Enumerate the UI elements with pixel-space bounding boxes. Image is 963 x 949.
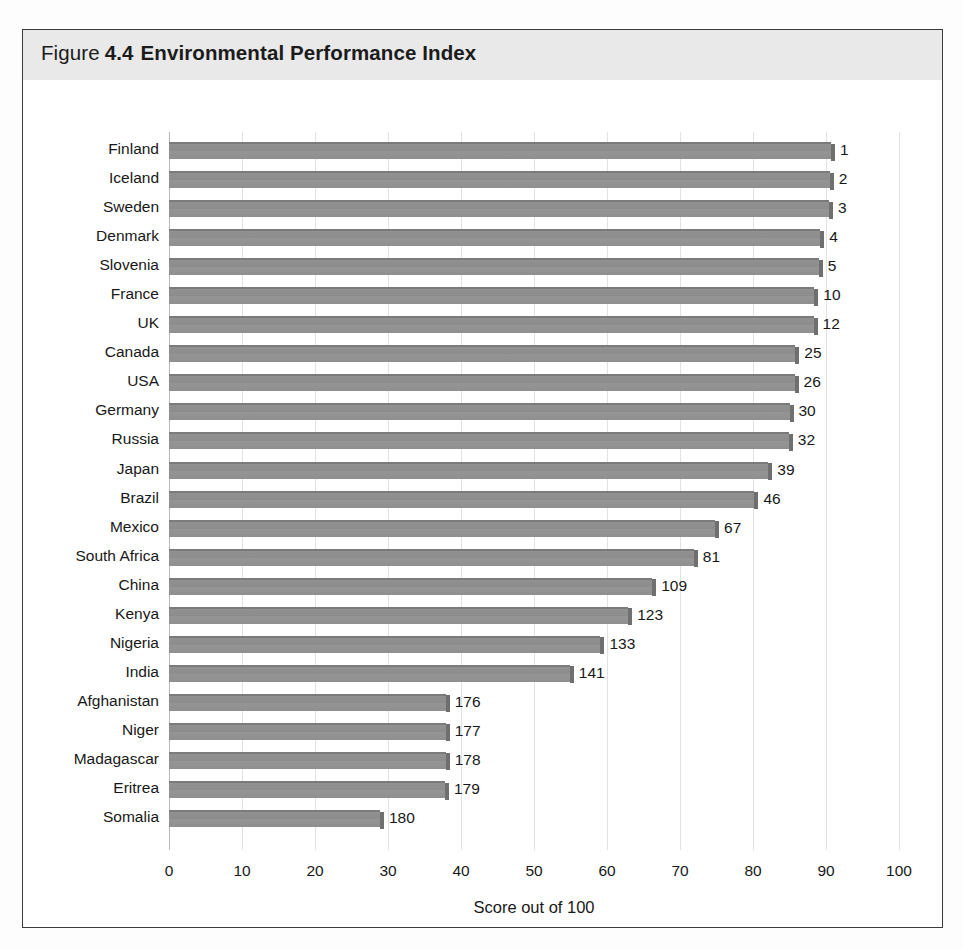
category-label: Afghanistan bbox=[0, 692, 159, 710]
bar-row: UK12 bbox=[23, 312, 942, 341]
x-tick-label: 10 bbox=[212, 862, 272, 880]
bar-value-label: 1 bbox=[840, 141, 849, 159]
bar-track: 81 bbox=[169, 545, 942, 574]
bar bbox=[169, 781, 445, 798]
bar-track: 30 bbox=[169, 399, 942, 428]
bar-value-label: 30 bbox=[799, 402, 816, 420]
bar-row: Madagascar178 bbox=[23, 748, 942, 777]
figure-header-band: Figure4.4Environmental Performance Index bbox=[23, 30, 942, 80]
bar-value-label: 177 bbox=[455, 722, 481, 740]
bar-track: 39 bbox=[169, 458, 942, 487]
bar-row: Japan39 bbox=[23, 458, 942, 487]
bar-track: 26 bbox=[169, 370, 942, 399]
bar-track: 179 bbox=[169, 777, 942, 806]
x-tick-label: 20 bbox=[285, 862, 345, 880]
x-tick-label: 90 bbox=[796, 862, 856, 880]
category-label: Slovenia bbox=[0, 256, 159, 274]
bar-track: 109 bbox=[169, 574, 942, 603]
bar-track: 5 bbox=[169, 254, 942, 283]
bar-row: Russia32 bbox=[23, 428, 942, 457]
bar-row: South Africa81 bbox=[23, 545, 942, 574]
x-tick-label: 40 bbox=[431, 862, 491, 880]
bar bbox=[169, 607, 628, 624]
bar bbox=[169, 636, 600, 653]
bar-track: 3 bbox=[169, 196, 942, 225]
bar-row: India141 bbox=[23, 661, 942, 690]
bar-track: 12 bbox=[169, 312, 942, 341]
bar-value-label: 178 bbox=[455, 751, 481, 769]
bar bbox=[169, 752, 446, 769]
bar bbox=[169, 810, 380, 827]
scanned-page: Figure4.4Environmental Performance Index… bbox=[0, 0, 963, 949]
bar bbox=[169, 374, 795, 391]
bar-row: France10 bbox=[23, 283, 942, 312]
bar-row: Iceland2 bbox=[23, 167, 942, 196]
x-axis: 0102030405060708090100 Score out of 100 bbox=[23, 862, 942, 896]
bar-value-label: 4 bbox=[829, 228, 838, 246]
category-label: Canada bbox=[0, 343, 159, 361]
category-label: UK bbox=[0, 314, 159, 332]
bar-row: Finland1 bbox=[23, 138, 942, 167]
plot-region: Finland1Iceland2Sweden3Denmark4Slovenia5… bbox=[23, 80, 942, 862]
bar bbox=[169, 258, 819, 275]
x-tick-label: 70 bbox=[650, 862, 710, 880]
bar bbox=[169, 229, 820, 246]
bar bbox=[169, 723, 446, 740]
bar-row: Germany30 bbox=[23, 399, 942, 428]
category-label: Iceland bbox=[0, 169, 159, 187]
bar-value-label: 2 bbox=[839, 170, 848, 188]
bar bbox=[169, 316, 814, 333]
bar-track: 178 bbox=[169, 748, 942, 777]
category-label: Brazil bbox=[0, 489, 159, 507]
bar-value-label: 25 bbox=[804, 344, 821, 362]
bar bbox=[169, 578, 652, 595]
bar-track: 10 bbox=[169, 283, 942, 312]
category-label: Finland bbox=[0, 140, 159, 158]
category-label: Madagascar bbox=[0, 750, 159, 768]
bar-track: 123 bbox=[169, 603, 942, 632]
bar-value-label: 12 bbox=[823, 315, 840, 333]
figure-title: Figure4.4Environmental Performance Index bbox=[41, 41, 476, 65]
bar bbox=[169, 403, 790, 420]
category-label: Russia bbox=[0, 430, 159, 448]
x-tick-label: 80 bbox=[723, 862, 783, 880]
category-label: Nigeria bbox=[0, 634, 159, 652]
category-label: Sweden bbox=[0, 198, 159, 216]
bar-value-label: 3 bbox=[838, 199, 847, 217]
bar bbox=[169, 432, 789, 449]
bar-value-label: 123 bbox=[637, 606, 663, 624]
x-tick-label: 100 bbox=[869, 862, 929, 880]
bar-value-label: 109 bbox=[661, 577, 687, 595]
figure-label-word: Figure bbox=[41, 41, 100, 64]
category-label: Japan bbox=[0, 460, 159, 478]
bar-track: 133 bbox=[169, 632, 942, 661]
category-label: Kenya bbox=[0, 605, 159, 623]
bar-row: Mexico67 bbox=[23, 516, 942, 545]
x-axis-title: Score out of 100 bbox=[169, 898, 899, 917]
bar-row: Eritrea179 bbox=[23, 777, 942, 806]
bar-track: 141 bbox=[169, 661, 942, 690]
bar bbox=[169, 345, 795, 362]
bar-row: Canada25 bbox=[23, 341, 942, 370]
bar-value-label: 81 bbox=[703, 548, 720, 566]
bar-track: 4 bbox=[169, 225, 942, 254]
bar bbox=[169, 142, 831, 159]
category-label: China bbox=[0, 576, 159, 594]
category-label: Mexico bbox=[0, 518, 159, 536]
bar-row: Nigeria133 bbox=[23, 632, 942, 661]
bar-track: 177 bbox=[169, 719, 942, 748]
bar-track: 67 bbox=[169, 516, 942, 545]
bar bbox=[169, 171, 830, 188]
x-tick-label: 50 bbox=[504, 862, 564, 880]
figure-name: Environmental Performance Index bbox=[141, 41, 477, 64]
bar-row: Kenya123 bbox=[23, 603, 942, 632]
category-label: Denmark bbox=[0, 227, 159, 245]
bar-value-label: 46 bbox=[763, 490, 780, 508]
bar-value-label: 10 bbox=[823, 286, 840, 304]
bar-row: China109 bbox=[23, 574, 942, 603]
bar-track: 46 bbox=[169, 487, 942, 516]
bar-track: 1 bbox=[169, 138, 942, 167]
bar-value-label: 133 bbox=[609, 635, 635, 653]
bar-row: Niger177 bbox=[23, 719, 942, 748]
category-label: Niger bbox=[0, 721, 159, 739]
